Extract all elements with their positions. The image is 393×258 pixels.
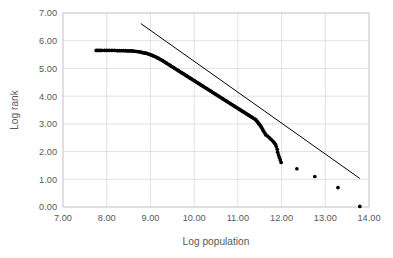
x-tick-label: 13.00 [314,213,337,223]
data-point [279,161,283,165]
y-tick-label: 4.00 [39,92,57,102]
x-axis-title: Log population [183,236,250,247]
data-point [336,186,340,190]
data-point [313,175,317,179]
y-tick-label: 2.00 [39,147,57,157]
x-tick-label: 11.00 [227,213,249,223]
x-tick-label: 8.00 [98,213,116,223]
x-tick-label: 12.00 [270,213,293,223]
x-tick-label: 14.00 [358,213,381,223]
y-axis-title: Log rank [9,89,20,130]
log-rank-log-population-scatter-chart: 7.008.009.0010.0011.0012.0013.0014.000.0… [0,0,393,258]
data-point [295,167,299,171]
y-tick-label: 7.00 [39,8,57,18]
y-tick-label: 3.00 [39,119,57,129]
x-tick-label: 7.00 [54,213,72,223]
y-tick-label: 6.00 [39,36,57,46]
y-axis-ticks: 0.001.002.003.004.005.006.007.00 [39,8,57,212]
x-axis-ticks: 7.008.009.0010.0011.0012.0013.0014.00 [54,213,380,223]
y-tick-label: 5.00 [39,64,57,74]
y-tick-label: 1.00 [39,175,57,185]
x-tick-label: 10.00 [183,213,206,223]
plot-area [63,13,369,207]
chart-container: 7.008.009.0010.0011.0012.0013.0014.000.0… [0,0,393,258]
x-tick-label: 9.00 [141,213,159,223]
data-point [358,205,362,209]
y-tick-label: 0.00 [39,202,57,212]
